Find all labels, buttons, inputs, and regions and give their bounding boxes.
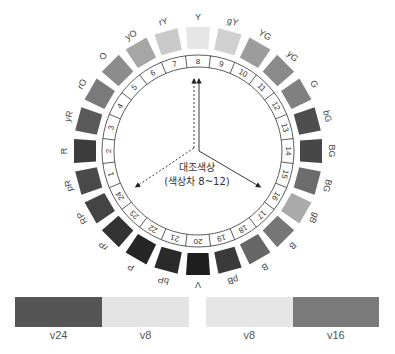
hue-label: B — [260, 261, 270, 273]
ring-divider — [161, 229, 166, 240]
ring-divider — [249, 218, 256, 228]
bar-label: v16 — [293, 329, 380, 341]
hue-swatch-19 — [213, 246, 242, 273]
ring-divider — [230, 229, 235, 240]
hue-number: 8 — [196, 57, 201, 66]
center-label-line2: (색상차 8~12) — [164, 176, 230, 187]
ring-divider — [186, 234, 188, 246]
hue-number: 4 — [115, 101, 125, 110]
hue-label: rO — [75, 77, 89, 91]
hue-swatch-21 — [154, 246, 183, 273]
ring-divider — [265, 93, 275, 100]
hue-label: G — [308, 78, 320, 89]
hue-number: 6 — [149, 68, 158, 78]
hue-swatch-10 — [239, 38, 271, 69]
ring-divider — [122, 93, 132, 100]
bar-label: v8 — [102, 329, 189, 341]
hue-label: V — [195, 280, 201, 290]
hue-label: gB — [307, 211, 321, 226]
hue-label: pR — [62, 178, 75, 192]
color-bar-v16: v16 — [293, 297, 380, 327]
hue-label: bP — [157, 274, 170, 287]
bar-label: v24 — [15, 329, 102, 341]
hue-number: 5 — [130, 82, 140, 92]
hue-number: 2 — [104, 148, 113, 153]
ring-divider — [103, 139, 115, 141]
ring-divider — [209, 56, 211, 68]
ring-divider — [122, 202, 132, 209]
hue-swatch-9 — [213, 28, 242, 55]
hue-label: YG — [257, 27, 273, 42]
hue-swatch-20 — [186, 253, 210, 275]
hue-circle-diagram: pRRyRrOOyOrYYgYYGyGGbGBGBGgBBBpBVbPPrPRP… — [0, 0, 395, 290]
center-label-line1: 대조색상 — [179, 162, 215, 173]
hue-swatch-24 — [85, 192, 116, 224]
ring-divider — [230, 62, 235, 73]
hue-label: P — [126, 261, 136, 273]
ring-divider — [209, 234, 211, 246]
hue-label: yG — [285, 49, 300, 64]
comparison-right: v8 v16 — [206, 297, 379, 331]
hue-swatch-22 — [126, 233, 158, 264]
ring-divider — [276, 114, 287, 119]
hue-swatch-12 — [280, 79, 311, 111]
hue-label: yO — [124, 28, 139, 42]
ring-divider — [265, 202, 275, 209]
hue-swatch-4 — [85, 79, 116, 111]
hue-label: B — [287, 240, 298, 251]
hue-swatch-14 — [300, 139, 322, 163]
hue-swatch-1 — [75, 166, 102, 195]
hue-label: BG — [327, 144, 337, 157]
color-bar-v8: v8 — [102, 297, 189, 327]
hue-label: rP — [96, 239, 109, 252]
ring-inner — [114, 67, 282, 235]
hue-number: 9 — [218, 59, 225, 69]
ring-divider — [109, 114, 120, 119]
ring-divider — [281, 139, 293, 141]
hue-label: rY — [158, 16, 169, 28]
ring-divider — [140, 218, 147, 228]
hue-swatch-6 — [126, 38, 158, 69]
hue-swatches: pRRyRrOOyOrYYgYYGyGGbGBGBGgBBBpBVbPPrPRP — [59, 12, 337, 290]
hue-label: O — [97, 50, 109, 62]
hue-swatch-16 — [280, 192, 311, 224]
ring-divider — [186, 56, 188, 68]
hue-number: 13 — [279, 122, 290, 133]
ring-divider — [281, 162, 293, 164]
hue-number: 19 — [215, 232, 226, 243]
ring-divider — [276, 183, 287, 188]
ring-divider — [161, 62, 166, 73]
ring-divider — [103, 162, 115, 164]
ring-divider — [140, 75, 147, 85]
hue-swatch-8 — [186, 27, 210, 49]
hue-label: gY — [226, 15, 239, 28]
bar-label: v8 — [206, 329, 293, 341]
hue-number-ring: 123456789101112131415161718192021222324 — [102, 55, 294, 247]
ring-divider — [109, 183, 120, 188]
hue-swatch-7 — [154, 28, 183, 55]
hue-label: Y — [195, 12, 201, 22]
hue-label: bG — [321, 109, 334, 123]
hue-swatch-15 — [293, 166, 320, 195]
hue-swatch-2 — [74, 139, 96, 163]
hue-label: R — [59, 147, 69, 154]
hue-swatch-3 — [75, 107, 102, 136]
ring-divider — [249, 75, 256, 85]
hue-swatch-18 — [239, 233, 271, 264]
hue-number: 23 — [128, 208, 141, 221]
hue-number: 15 — [279, 169, 290, 180]
hue-label: BG — [321, 178, 334, 193]
hue-number: 20 — [193, 237, 202, 246]
hue-swatch-13 — [293, 107, 320, 136]
hue-number: 7 — [171, 59, 178, 69]
hue-label: yR — [62, 109, 75, 123]
hue-number: 3 — [106, 124, 116, 131]
hue-number: 1 — [106, 170, 116, 177]
hue-label: pB — [226, 274, 239, 287]
hue-number: 21 — [169, 232, 180, 243]
hue-number: 17 — [255, 208, 268, 221]
comparison-left: v24 v8 — [15, 297, 189, 331]
hue-label: RP — [75, 210, 90, 226]
color-bar-v8: v8 — [206, 297, 293, 327]
hue-number: 14 — [284, 147, 293, 156]
